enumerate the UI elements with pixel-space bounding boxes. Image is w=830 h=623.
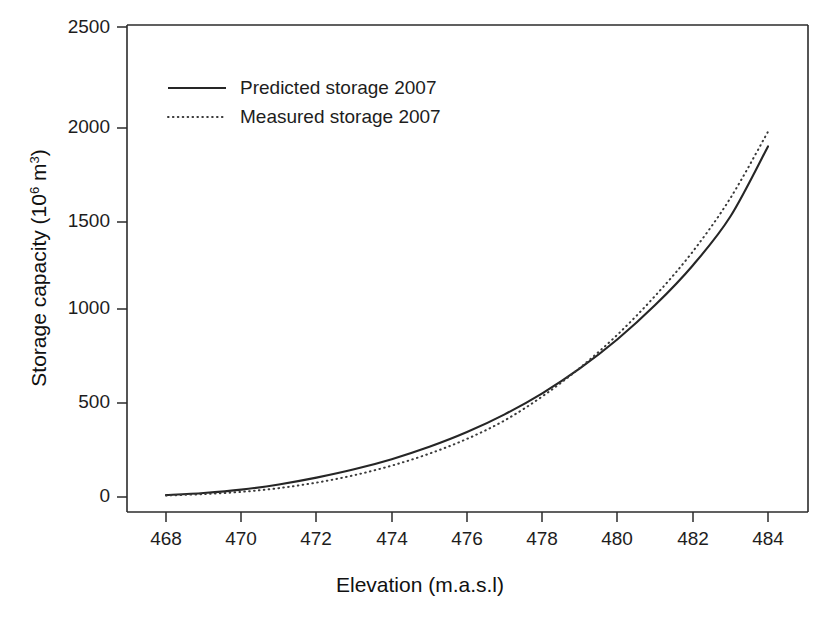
legend-label-predicted: Predicted storage 2007 — [240, 77, 436, 98]
storage-capacity-elevation-chart: 0 500 1000 1500 2000 2500 468 470 472 47… — [0, 0, 830, 623]
x-axis-title: Elevation (m.a.s.l) — [336, 573, 504, 596]
y-tick-label-2500: 2500 — [68, 16, 110, 37]
y-axis-title: Storage capacity (106 m3) — [27, 149, 50, 386]
legend-label-measured: Measured storage 2007 — [240, 106, 441, 127]
y-tick-label-1500: 1500 — [68, 210, 110, 231]
x-tick-label-480: 480 — [601, 528, 633, 549]
x-tick-label-476: 476 — [451, 528, 483, 549]
x-tick-label-484: 484 — [752, 528, 784, 549]
y-tick-label-0: 0 — [99, 485, 110, 506]
chart-figure: 0 500 1000 1500 2000 2500 468 470 472 47… — [0, 0, 830, 623]
y-tick-label-1000: 1000 — [68, 297, 110, 318]
y-tick-label-500: 500 — [78, 391, 110, 412]
x-tick-label-472: 472 — [300, 528, 332, 549]
x-tick-label-468: 468 — [150, 528, 182, 549]
x-tick-label-474: 474 — [376, 528, 408, 549]
y-tick-label-2000: 2000 — [68, 116, 110, 137]
x-tick-label-482: 482 — [677, 528, 709, 549]
x-tick-label-470: 470 — [225, 528, 257, 549]
x-tick-label-478: 478 — [526, 528, 558, 549]
